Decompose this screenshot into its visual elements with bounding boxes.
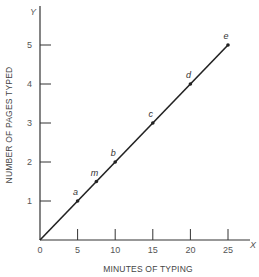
data-point <box>95 180 99 184</box>
series-line <box>40 45 228 240</box>
data-point-label: a <box>73 187 78 197</box>
x-tick-label: 25 <box>223 245 233 255</box>
data-point-label: e <box>223 31 228 41</box>
x-tick-label: 10 <box>110 245 120 255</box>
axes <box>40 6 250 240</box>
y-tick-label: 2 <box>27 157 32 167</box>
x-axis-title: MINUTES OF TYPING <box>103 264 193 274</box>
data-point <box>151 121 155 125</box>
x-axis-letter: X <box>249 240 257 250</box>
x-tick-label: 0 <box>37 245 42 255</box>
y-tick-label: 4 <box>27 79 32 89</box>
data-point-label: m <box>91 168 99 178</box>
y-axis-title: NUMBER OF PAGES TYPED <box>4 67 14 184</box>
data-point <box>113 160 117 164</box>
data-points: ambcde <box>73 31 230 203</box>
data-point <box>189 82 193 86</box>
x-tick-label: 5 <box>75 245 80 255</box>
y-tick-label: 1 <box>27 196 32 206</box>
y-tick-label: 3 <box>27 118 32 128</box>
line-chart: 051015202512345 ambcde MINUTES OF TYPING… <box>0 0 259 277</box>
data-point <box>226 43 230 47</box>
series-line <box>40 45 228 240</box>
data-point-label: d <box>186 70 192 80</box>
data-point-label: c <box>149 109 154 119</box>
x-tick-label: 15 <box>148 245 158 255</box>
data-point-label: b <box>111 148 116 158</box>
y-axis-letter: Y <box>30 7 37 17</box>
x-tick-label: 20 <box>185 245 195 255</box>
y-tick-label: 5 <box>27 40 32 50</box>
data-point <box>76 199 80 203</box>
